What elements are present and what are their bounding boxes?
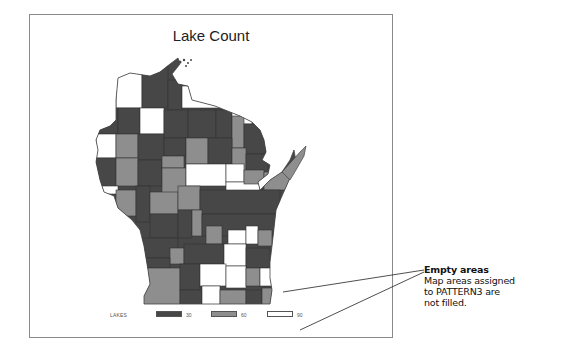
county	[246, 226, 258, 244]
county	[116, 70, 142, 108]
county	[180, 290, 202, 308]
county	[246, 248, 270, 268]
county	[142, 60, 168, 108]
county	[170, 248, 184, 264]
county	[116, 190, 136, 216]
legend-value-2: 60	[241, 312, 247, 318]
callout-title: Empty areas	[424, 264, 564, 275]
county	[232, 116, 244, 148]
county	[208, 138, 232, 164]
county	[118, 108, 140, 134]
county	[182, 86, 224, 108]
county	[200, 190, 280, 214]
apostle-islands	[179, 59, 193, 67]
county	[138, 160, 162, 186]
county	[150, 192, 178, 214]
legend-swatch-pattern3	[267, 311, 293, 317]
county	[140, 108, 164, 134]
county	[226, 164, 244, 182]
county	[180, 264, 200, 290]
county	[226, 266, 246, 288]
county	[220, 290, 246, 308]
county	[206, 226, 222, 244]
legend-title: LAKES	[110, 312, 127, 318]
county	[178, 186, 200, 210]
county	[162, 156, 184, 168]
county	[188, 110, 216, 138]
callout-annotation: Empty areas Map areas assigned to PATTER…	[424, 264, 564, 308]
county	[178, 210, 192, 238]
county	[216, 110, 232, 138]
county	[186, 164, 226, 186]
callout-line-3: not filled.	[424, 297, 564, 308]
county	[140, 268, 180, 308]
county	[202, 286, 220, 308]
legend-value-1: 30	[186, 312, 192, 318]
county	[150, 214, 178, 238]
county	[260, 268, 274, 286]
county	[246, 268, 260, 286]
county	[258, 230, 272, 246]
legend-swatch-pattern1	[156, 311, 182, 317]
county	[186, 138, 208, 164]
county	[116, 158, 138, 186]
county	[164, 138, 186, 156]
leader-line-to-legend	[300, 272, 424, 330]
legend-value-3: 90	[297, 312, 303, 318]
county	[138, 134, 164, 160]
county	[244, 170, 264, 184]
county	[116, 134, 138, 158]
county	[200, 264, 226, 286]
county	[164, 110, 188, 138]
county	[228, 230, 246, 244]
leader-line-to-map	[283, 270, 424, 292]
county	[262, 288, 276, 308]
county	[140, 258, 170, 268]
county	[244, 124, 266, 154]
callout-line-2: to PATTERN3 are	[424, 286, 564, 297]
callout-line-1: Map areas assigned	[424, 275, 564, 286]
county	[246, 290, 262, 308]
county	[224, 244, 246, 266]
county	[136, 186, 150, 222]
county	[96, 134, 116, 158]
county	[184, 244, 224, 264]
legend-swatch-pattern2	[211, 311, 237, 317]
county	[192, 210, 202, 236]
